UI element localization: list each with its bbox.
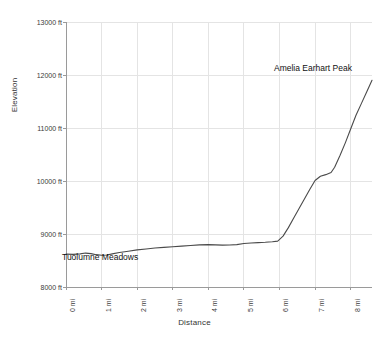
y-axis-tick-label: 11000 ft [14, 125, 62, 132]
annotation-amelia-earhart-peak: Amelia Earhart Peak [274, 63, 352, 73]
x-axis-tick-label: 4 mi [211, 299, 218, 312]
x-axis-title: Distance [0, 318, 389, 327]
x-axis-tick-label: 8 mi [354, 299, 361, 312]
x-axis-tick-label: 7 mi [318, 299, 325, 312]
elevation-profile-chart: Elevation Distance 8000 ft9000 ft10000 f… [0, 0, 389, 338]
x-axis-tick-label: 2 mi [140, 299, 147, 312]
annotation-tuolumne-meadows: Tuolumne Meadows [62, 252, 138, 262]
x-axis-tick-label: 3 mi [176, 299, 183, 312]
y-axis-tick-label: 9000 ft [14, 231, 62, 238]
x-axis-tick-label: 6 mi [282, 299, 289, 312]
elevation-line-series [66, 80, 372, 255]
x-axis-tick-label: 0 mi [69, 299, 76, 312]
y-axis-tick-label: 10000 ft [14, 178, 62, 185]
x-axis-tick-label: 5 mi [247, 299, 254, 312]
x-axis-tick-label: 1 mi [105, 299, 112, 312]
y-axis-tick-label: 12000 ft [14, 72, 62, 79]
gridlines [66, 22, 372, 287]
elevation-line [66, 80, 372, 255]
y-axis-tick-label: 8000 ft [14, 284, 62, 291]
y-axis-tick-label: 13000 ft [14, 19, 62, 26]
y-axis-title: Elevation [10, 60, 19, 130]
